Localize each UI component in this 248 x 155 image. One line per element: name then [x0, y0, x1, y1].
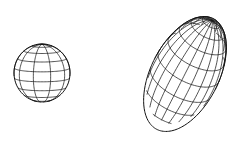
wireframe-sphere: [14, 44, 70, 102]
meridian-line: [179, 21, 215, 123]
meridian-line: [169, 21, 213, 124]
wireframe-figure: [0, 0, 248, 155]
parallel-line: [158, 49, 220, 87]
parallel-line: [18, 88, 66, 91]
parallel-line: [14, 78, 69, 82]
parallel-line: [24, 95, 60, 97]
meridian-line: [148, 20, 212, 78]
parallel-line: [24, 51, 60, 54]
silhouette-outline: [14, 44, 70, 102]
parallel-line: [14, 68, 69, 72]
parallel-line: [150, 69, 209, 103]
diagram-canvas: [0, 0, 248, 155]
parallel-line: [18, 58, 67, 62]
wireframe-ellipsoid: [144, 17, 227, 132]
